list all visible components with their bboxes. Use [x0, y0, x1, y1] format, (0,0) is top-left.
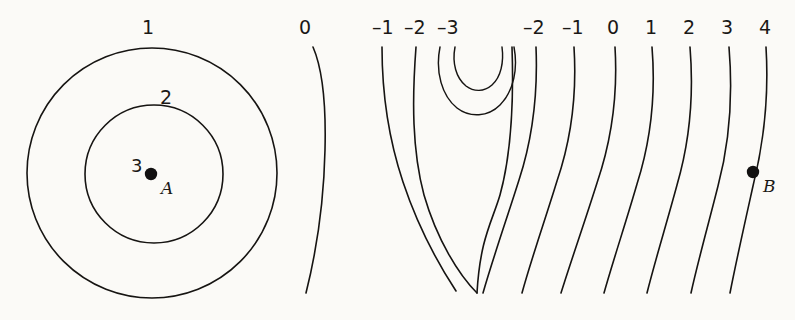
- contour-label-a-level-3: 3: [131, 157, 142, 175]
- contour-label-b-level-minus2-right: –2: [523, 18, 545, 37]
- contour-label-a-level-2: 2: [160, 88, 172, 107]
- contour-label-b-level-0-right: 0: [607, 18, 619, 37]
- contour-curve-level-minus1-right: [483, 47, 536, 293]
- contour-curve-level-4: [691, 47, 731, 293]
- contour-label-b-level-minus1-left: –1: [372, 18, 394, 37]
- contour-curve-level-minus2-closed: [438, 47, 515, 115]
- point-b-dot: [747, 166, 759, 178]
- contour-curve-level-minus2-left: [414, 47, 477, 293]
- contour-curve-level-0-left: [306, 47, 325, 293]
- contour-figure: 1 2 3 A 0 –1 –2 –3 –2 –1 0 1 2 3 4 B: [0, 0, 795, 320]
- contour-curve-level-0-right: [522, 47, 575, 293]
- contour-label-b-level-1: 1: [645, 18, 657, 37]
- point-b-label: B: [763, 178, 776, 195]
- contour-curve-level-2: [604, 47, 653, 293]
- panel-b-contours: [306, 47, 767, 293]
- point-a-dot: [145, 168, 157, 180]
- contour-label-b-level-minus1-right: –1: [562, 18, 584, 37]
- contour-label-b-level-minus2-left: –2: [404, 18, 426, 37]
- contour-label-a-level-1: 1: [142, 18, 154, 37]
- contour-curve-level-minus3-closed: [454, 47, 503, 90]
- contour-label-b-level-2: 2: [683, 18, 695, 37]
- contour-drawing-canvas: [0, 0, 795, 320]
- contour-label-b-level-3: 3: [721, 18, 733, 37]
- contour-curve-level-1: [561, 47, 616, 293]
- point-a-label: A: [161, 180, 173, 197]
- contour-label-b-level-4: 4: [759, 18, 771, 37]
- contour-label-b-level-0-left: 0: [299, 18, 311, 37]
- contour-label-b-level-minus3: –3: [437, 18, 459, 37]
